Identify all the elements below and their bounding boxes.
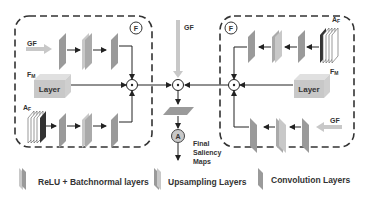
right-fusion-module: F AF FM Layer [185, 16, 354, 153]
right-gf-label: GF [330, 117, 340, 124]
final-saliency-label: Final Saliency Maps [193, 140, 222, 166]
center-column: GF A Final Saliency Maps [163, 20, 222, 166]
right-layer-box: Layer [294, 74, 330, 98]
legend-item-relu-batchnorm: ReLU + Batchnormal layers [19, 168, 149, 190]
left-attention-stack [28, 111, 46, 143]
svg-text:Final: Final [193, 140, 209, 147]
right-fusion-badge: F [225, 22, 237, 34]
svg-text:Layer: Layer [39, 85, 60, 94]
left-fusion-module: F GF FM Layer [15, 16, 171, 148]
left-bottom-upsample [82, 113, 92, 148]
center-upsample-layer [163, 107, 194, 115]
left-fm-label: FM [27, 71, 35, 79]
left-af-label: AF [23, 104, 31, 112]
left-gf-label: GF [27, 40, 37, 47]
convolution-layer-icon [258, 168, 263, 190]
svg-text:ReLU + Batchnormal layers: ReLU + Batchnormal layers [38, 177, 149, 187]
legend-item-upsampling: Upsampling Layers [154, 168, 247, 190]
right-attention-stack [320, 28, 338, 63]
svg-text:F: F [229, 25, 234, 32]
legend: ReLU + Batchnormal layers Upsampling Lay… [19, 168, 351, 190]
left-bottom-conv-1 [59, 113, 66, 148]
left-bottom-conv-2 [111, 113, 118, 148]
svg-text:F: F [134, 25, 139, 32]
svg-text:Upsampling Layers: Upsampling Layers [168, 177, 247, 187]
upsampling-layer-icon [154, 168, 161, 190]
aggregation-node: A [172, 130, 185, 143]
right-bottom-upsample [276, 118, 286, 153]
left-top-upsample [82, 33, 92, 70]
right-af-label: AF [332, 16, 340, 24]
architecture-diagram: F GF FM Layer [0, 0, 368, 199]
svg-text:Layer: Layer [298, 85, 319, 94]
relu-layer-icon [19, 168, 26, 190]
left-top-conv-2 [111, 33, 118, 70]
left-multiply-node [127, 80, 138, 91]
left-layer-box: Layer [34, 74, 71, 98]
svg-text:A: A [175, 133, 180, 140]
right-top-upsample [272, 30, 282, 63]
center-multiply-node [173, 80, 184, 91]
left-fusion-badge: F [130, 22, 142, 34]
right-fm-label: FM [330, 68, 338, 76]
svg-text:Maps: Maps [193, 158, 211, 166]
right-multiply-node [229, 80, 240, 91]
center-gf-label: GF [184, 24, 194, 31]
right-top-conv-2 [248, 30, 255, 63]
left-top-conv-1 [59, 33, 66, 70]
legend-item-convolution: Convolution Layers [258, 168, 351, 190]
svg-text:Convolution Layers: Convolution Layers [271, 175, 351, 185]
center-gf-arrow-icon [173, 20, 183, 78]
right-top-conv-1 [298, 30, 305, 63]
svg-text:Saliency: Saliency [193, 149, 222, 157]
